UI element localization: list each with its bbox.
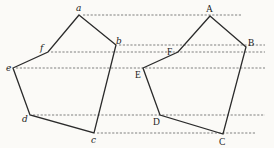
vertex-label-C: C <box>219 137 225 147</box>
vertex-label-B: B <box>248 38 254 48</box>
vertex-label-D: D <box>153 117 160 127</box>
vertex-label-F: F <box>167 47 172 57</box>
vertex-label-a: a <box>76 3 81 13</box>
vertex-label-e: e <box>6 63 11 73</box>
vertex-label-E: E <box>135 70 141 80</box>
vertex-labels: abcdefABCDEF <box>6 3 254 147</box>
pentagon-projection-diagram: abcdefABCDEF <box>0 0 274 148</box>
vertex-label-A: A <box>206 4 213 14</box>
vertex-label-c: c <box>91 135 96 145</box>
vertex-label-f: f <box>39 43 45 53</box>
vertex-label-d: d <box>22 114 28 124</box>
vertex-label-b: b <box>116 36 122 46</box>
